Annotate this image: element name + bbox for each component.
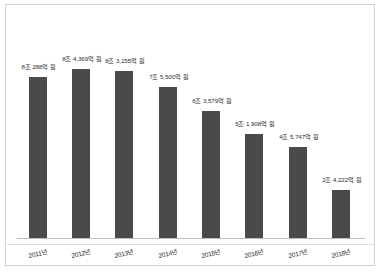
tick-slot: 2016년: [233, 245, 275, 271]
tick-slot: 2011년: [17, 245, 59, 271]
x-tick-label: 2018년: [330, 247, 351, 260]
tick-slot: 2013년: [103, 245, 145, 271]
bar-value-label: 7조 5,500억 원: [149, 73, 188, 81]
x-tick-label: 2016년: [243, 247, 264, 260]
bar[interactable]: [72, 69, 90, 239]
bar-slot: 7조 5,500억 원: [147, 11, 189, 239]
bar-value-label: 8조 3,155억 원: [105, 57, 144, 65]
x-tick-label: 2014년: [157, 247, 178, 260]
plot-area: 8조 288억 원 8조 4,369억 원 8조 3,155억 원 7조 5,5…: [17, 11, 365, 239]
tick-slot: 2014년: [147, 245, 189, 271]
bar-value-label: 8조 4,369억 원: [62, 55, 101, 63]
bar[interactable]: [332, 190, 350, 239]
bar-slot: 2조 4,222억 원: [320, 11, 362, 239]
x-tick-label: 2013년: [113, 247, 134, 260]
bar-slot: 8조 288억 원: [17, 11, 59, 239]
bar-slot: 8조 3,155억 원: [103, 11, 145, 239]
bar-slot: 5조 1,908억 원: [233, 11, 275, 239]
tick-slot: 2017년: [277, 245, 319, 271]
bar[interactable]: [202, 111, 220, 239]
tick-slot: 2012년: [60, 245, 102, 271]
x-axis-tick-labels: 2011년 2012년 2013년 2014년 2015년 2016년 2017…: [17, 245, 365, 271]
tick-slot: 2015년: [190, 245, 232, 271]
x-tick-label: 2012년: [70, 247, 91, 260]
bar-value-label: 4조 5,747억 원: [279, 133, 318, 141]
x-tick-label: 2017년: [287, 247, 308, 260]
bar[interactable]: [289, 147, 307, 239]
bar-slot: 6조 3,579억 원: [190, 11, 232, 239]
tick-slot: 2018년: [320, 245, 362, 271]
bar-value-label: 5조 1,908억 원: [235, 120, 274, 128]
x-tick-label: 2015년: [200, 247, 221, 260]
bar-value-label: 6조 3,579억 원: [192, 97, 231, 105]
x-tick-label: 2011년: [28, 247, 49, 260]
bar[interactable]: [29, 77, 47, 239]
x-axis-line: [17, 238, 365, 239]
bar[interactable]: [115, 71, 133, 239]
bar-value-label: 2조 4,222억 원: [322, 176, 361, 184]
bar[interactable]: [159, 87, 177, 239]
bar-slot: 4조 5,747억 원: [277, 11, 319, 239]
bar[interactable]: [245, 134, 263, 239]
chart-frame: 8조 288억 원 8조 4,369억 원 8조 3,155억 원 7조 5,5…: [5, 4, 375, 266]
bar-slot: 8조 4,369억 원: [60, 11, 102, 239]
bar-value-label: 8조 288억 원: [22, 63, 56, 71]
